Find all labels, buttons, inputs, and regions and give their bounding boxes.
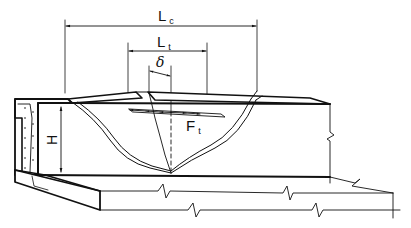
label-force-ft: Ft (186, 118, 201, 133)
diagram-drawing (0, 0, 411, 228)
wall-top-surface (68, 92, 330, 104)
label-delta: δ (156, 55, 164, 69)
diagram-canvas: Lc Lt δ H Ft (0, 0, 411, 228)
label-lt: Lt (157, 34, 171, 49)
label-lc: Lc (158, 8, 174, 23)
central-crack (149, 93, 171, 173)
footing (15, 170, 400, 218)
wall-right-edge (327, 104, 334, 183)
label-height: H (45, 135, 59, 145)
force-ft-arrows (129, 109, 225, 117)
